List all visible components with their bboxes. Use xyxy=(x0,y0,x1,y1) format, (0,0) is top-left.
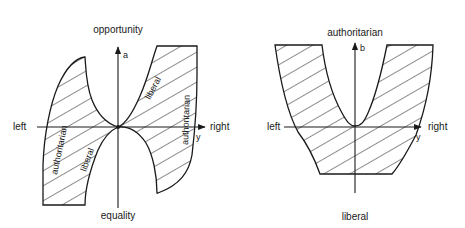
axis-right-label: right xyxy=(428,121,448,132)
vertical-axis-symbol: a xyxy=(123,50,128,60)
axis-left-label: left xyxy=(267,121,281,132)
region-label-authoritarian-upper: authoritarian xyxy=(180,95,192,145)
axis-top-label: opportunity xyxy=(93,24,142,35)
axis-bottom-label: equality xyxy=(101,210,135,221)
horizontal-axis-symbol: y xyxy=(196,132,201,142)
left-region-shape xyxy=(43,57,118,205)
vertical-axis-symbol: b xyxy=(360,43,365,53)
axis-top-label: authoritarian xyxy=(327,27,383,38)
diagram-canvas: opportunity equality left right a y libe… xyxy=(0,0,465,228)
axis-bottom-label: liberal xyxy=(342,211,369,222)
axis-left-label: left xyxy=(13,121,27,132)
v-region-shape xyxy=(275,45,433,174)
horizontal-axis-symbol: y xyxy=(416,132,421,142)
axis-right-label: right xyxy=(210,121,230,132)
figure-left: opportunity equality left right a y libe… xyxy=(13,24,230,221)
origin-dot xyxy=(116,125,120,129)
figure-right: authoritarian liberal left right b y xyxy=(267,27,448,222)
